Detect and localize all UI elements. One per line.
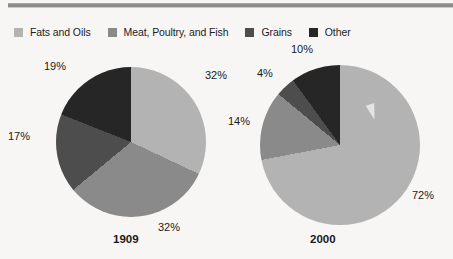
pie-2000-label-meat-poultry-and-fish: 14% bbox=[228, 116, 250, 127]
legend-swatch-icon-meat-poultry-and-fish bbox=[108, 28, 117, 37]
pie-1909-label-other: 19% bbox=[44, 61, 66, 72]
pie-1909-label-grains: 17% bbox=[8, 131, 30, 142]
pie-1909-label-fats-and-oils: 32% bbox=[205, 70, 227, 81]
legend-label-grains: Grains bbox=[261, 27, 291, 38]
legend-label-other: Other bbox=[325, 27, 351, 38]
pie-2000-label-grains: 4% bbox=[257, 68, 273, 79]
legend-label-fats-and-oils: Fats and Oils bbox=[30, 27, 91, 38]
legend-item-fats-and-oils: Fats and Oils bbox=[14, 27, 91, 38]
pie-1909-year-label: 1909 bbox=[113, 234, 139, 246]
pie-1909-label-meat-poultry-and-fish: 32% bbox=[158, 222, 180, 233]
legend-item-meat-poultry-and-fish: Meat, Poultry, and Fish bbox=[108, 27, 229, 38]
pie-2000-label-other: 10% bbox=[291, 44, 313, 55]
legend-item-other: Other bbox=[309, 27, 351, 38]
pie-2000-label-fats-and-oils: 72% bbox=[412, 190, 434, 201]
legend-label-meat-poultry-and-fish: Meat, Poultry, and Fish bbox=[124, 27, 229, 38]
legend-item-grains: Grains bbox=[245, 27, 291, 38]
pie-chart-2000 bbox=[260, 65, 420, 225]
pie-chart-1909 bbox=[56, 67, 206, 217]
legend-swatch-icon-fats-and-oils bbox=[14, 28, 23, 37]
legend-swatch-icon-grains bbox=[245, 28, 254, 37]
top-divider-rule bbox=[8, 3, 453, 8]
pie-2000-year-label: 2000 bbox=[310, 234, 336, 246]
legend-swatch-icon-other bbox=[309, 28, 318, 37]
pie-chart-figure: Fats and Oils Meat, Poultry, and Fish Gr… bbox=[0, 0, 453, 259]
chart-legend: Fats and Oils Meat, Poultry, and Fish Gr… bbox=[0, 22, 453, 42]
